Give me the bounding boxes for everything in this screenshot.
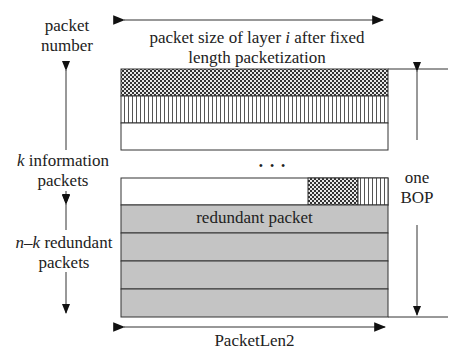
packet-size-line1: packet size of layer i after fixed bbox=[112, 28, 402, 48]
n-k-redundant-packets-label: n–k redundant packets bbox=[8, 233, 120, 273]
packet-size-line2: length packetization bbox=[112, 48, 402, 68]
packet-number-label: packet number bbox=[22, 16, 112, 56]
packet-size-label: packet size of layer i after fixed lengt… bbox=[112, 28, 402, 68]
information-packets-block bbox=[121, 69, 388, 150]
ellipsis: • • • bbox=[248, 156, 298, 176]
k-information-packets-label: k information packets bbox=[8, 151, 118, 191]
redundant-packet-label: redundant packet bbox=[121, 208, 388, 228]
last-information-packet-row bbox=[121, 178, 388, 205]
packet-number-line1: packet bbox=[22, 16, 112, 36]
one-bop-label: one BOP bbox=[392, 168, 442, 208]
packetlen2-label: PacketLen2 bbox=[121, 331, 388, 351]
packet-number-line2: number bbox=[22, 36, 112, 56]
